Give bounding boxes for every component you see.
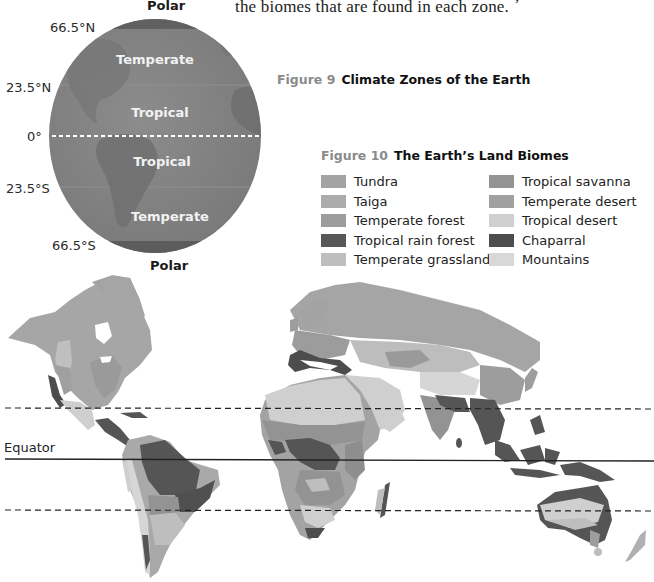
figure-9-number: Figure 9 — [277, 72, 335, 87]
legend-label: Temperate grassland — [354, 252, 490, 267]
figure-10-caption: Figure 10The Earth’s Land Biomes — [321, 148, 569, 163]
equator-label: Equator — [4, 440, 55, 455]
cut-off-glyph: , — [515, 0, 519, 6]
africa — [260, 375, 405, 540]
swatch-tropical-desert — [489, 214, 514, 227]
swatch-taiga — [321, 195, 346, 208]
legend-label: Tropical savanna — [522, 174, 631, 189]
legend-label: Mountains — [522, 252, 589, 267]
legend-item-temperate-grassland: Temperate grassland — [321, 250, 490, 270]
swatch-temperate-desert — [489, 195, 514, 208]
figure-9-climate-zones: Temperate Tropical Tropical Temperate — [0, 0, 300, 280]
legend-item-tundra: Tundra — [321, 172, 490, 192]
figure-10-title: The Earth’s Land Biomes — [394, 148, 569, 163]
swatch-tropical-rain-forest — [321, 234, 346, 247]
world-map-svg — [0, 270, 654, 582]
world-biome-map — [0, 270, 654, 582]
oceania — [495, 415, 646, 562]
legend-item-temperate-forest: Temperate forest — [321, 211, 490, 231]
legend-column-left: Tundra Taiga Temperate forest Tropical r… — [321, 172, 490, 270]
legend-item-chaparral: Chaparral — [489, 231, 637, 251]
legend-label: Tundra — [354, 174, 398, 189]
legend-item-tropical-rain-forest: Tropical rain forest — [321, 231, 490, 251]
legend-label: Chaparral — [522, 233, 586, 248]
legend-label: Taiga — [354, 194, 388, 209]
swatch-mountains — [489, 253, 514, 266]
zone-label-tropical-south: Tropical — [133, 154, 190, 169]
zone-label-temperate-north: Temperate — [116, 52, 194, 67]
legend-label: Tropical desert — [522, 213, 617, 228]
biome-legend: Tundra Taiga Temperate forest Tropical r… — [321, 172, 651, 272]
zone-label-temperate-south: Temperate — [131, 209, 209, 224]
latitude-label-0: 0° — [27, 129, 42, 144]
legend-label: Temperate desert — [522, 194, 637, 209]
latitude-label-66-5-n: 66.5°N — [50, 20, 95, 35]
latitude-label-23-5-n: 23.5°N — [6, 80, 51, 95]
legend-item-tropical-savanna: Tropical savanna — [489, 172, 637, 192]
legend-item-mountains: Mountains — [489, 250, 637, 270]
figure-9-caption: Figure 9Climate Zones of the Earth — [277, 72, 530, 87]
latitude-label-23-5-s: 23.5°S — [6, 181, 50, 196]
legend-label: Tropical rain forest — [354, 233, 475, 248]
swatch-tundra — [321, 175, 346, 188]
north-america — [8, 275, 152, 448]
swatch-tropical-savanna — [489, 175, 514, 188]
legend-column-right: Tropical savanna Temperate desert Tropic… — [489, 172, 637, 270]
zone-label-polar-north: Polar — [147, 0, 185, 13]
globe-illustration: Temperate Tropical Tropical Temperate — [0, 0, 300, 280]
swatch-chaparral — [489, 234, 514, 247]
legend-item-temperate-desert: Temperate desert — [489, 192, 637, 212]
legend-item-taiga: Taiga — [321, 192, 490, 212]
latitude-label-66-5-s: 66.5°S — [52, 238, 96, 253]
tropic-of-cancer-line — [5, 408, 654, 409]
swatch-temperate-forest — [321, 214, 346, 227]
zone-label-tropical-north: Tropical — [131, 105, 188, 120]
figure-9-title: Climate Zones of the Earth — [341, 72, 530, 87]
figure-10-number: Figure 10 — [321, 148, 388, 163]
south-america — [122, 435, 220, 578]
legend-label: Temperate forest — [354, 213, 465, 228]
swatch-temperate-grassland — [321, 253, 346, 266]
legend-item-tropical-desert: Tropical desert — [489, 211, 637, 231]
